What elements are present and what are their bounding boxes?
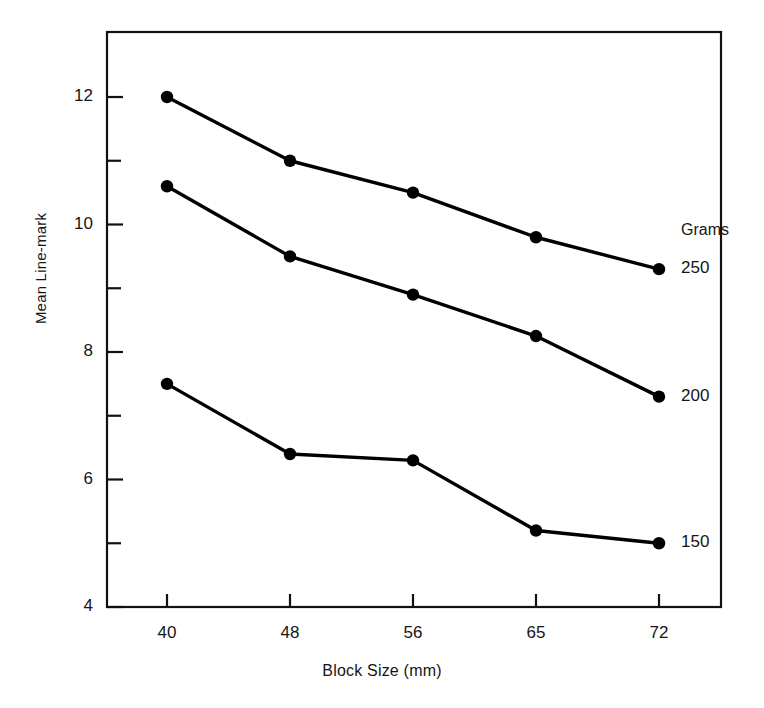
x-tick-label: 48: [260, 623, 320, 643]
data-point-150-65: [530, 524, 542, 536]
data-point-250-40: [161, 91, 173, 103]
data-point-250-48: [284, 155, 296, 167]
series-line-250: [167, 97, 659, 269]
x-axis-title: Block Size (mm): [0, 662, 764, 680]
data-point-150-72: [653, 537, 665, 549]
y-tick-label: 12: [49, 86, 93, 106]
data-point-200-72: [653, 390, 665, 402]
data-point-150-40: [161, 378, 173, 390]
data-point-250-65: [530, 231, 542, 243]
data-point-150-48: [284, 448, 296, 460]
data-series-layer: [161, 91, 665, 550]
x-tick-label: 65: [506, 623, 566, 643]
data-point-200-56: [407, 288, 419, 300]
y-axis-major-ticks: [107, 97, 123, 607]
x-tick-label: 40: [137, 623, 197, 643]
y-tick-label: 8: [49, 341, 93, 361]
y-axis-title: Mean Line-mark: [32, 169, 49, 369]
series-end-label-200: 200: [681, 386, 709, 406]
chart-figure: Mean Line-mark Block Size (mm) 1210864 4…: [0, 0, 764, 708]
data-point-200-40: [161, 180, 173, 192]
plot-frame: [107, 32, 721, 607]
data-point-200-48: [284, 250, 296, 262]
y-tick-label: 10: [49, 214, 93, 234]
series-end-label-150: 150: [681, 532, 709, 552]
data-point-200-65: [530, 330, 542, 342]
data-point-250-72: [653, 263, 665, 275]
data-point-150-56: [407, 454, 419, 466]
x-tick-label: 56: [383, 623, 443, 643]
y-tick-label: 4: [49, 596, 93, 616]
data-point-250-56: [407, 186, 419, 198]
y-tick-label: 6: [49, 469, 93, 489]
series-end-label-250: 250: [681, 258, 709, 278]
legend-title: Grams: [681, 221, 729, 239]
x-tick-label: 72: [629, 623, 689, 643]
x-axis-ticks: [167, 594, 659, 607]
line-chart-plot: [0, 0, 764, 708]
